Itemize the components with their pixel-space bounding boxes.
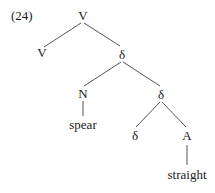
tree-edges: [0, 0, 215, 193]
edge-delta1-delta2: [123, 62, 160, 86]
node-delta-3: δ: [132, 129, 138, 142]
edge-delta2-a: [162, 102, 186, 127]
node-delta-2: δ: [158, 88, 164, 101]
leaf-straight: straight: [168, 168, 207, 181]
node-delta-1: δ: [119, 48, 125, 61]
edge-root-delta1: [84, 23, 120, 46]
node-n: N: [78, 87, 87, 100]
node-root-v: V: [78, 9, 87, 22]
leaf-spear: spear: [69, 118, 96, 131]
node-left-v: V: [37, 46, 46, 59]
node-a: A: [182, 129, 191, 142]
edge-delta1-n: [84, 62, 121, 86]
edge-delta2-delta3: [136, 102, 160, 127]
edge-root-vleft: [44, 23, 81, 47]
syntax-tree-figure: (24) V V δ N δ spear δ A straight: [0, 0, 215, 193]
